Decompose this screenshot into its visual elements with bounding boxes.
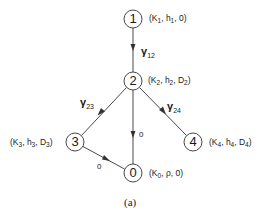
h-subscript: 4 — [231, 141, 235, 148]
arrowhead-icon — [159, 107, 166, 115]
gamma-subscript: 23 — [86, 103, 94, 110]
node-2-label: (K2, h2, D2) — [148, 76, 191, 87]
k-subscript: 4 — [218, 141, 222, 148]
arrowhead-icon — [131, 131, 136, 138]
d-subscript: 4 — [245, 141, 249, 148]
node-4-label: (K4, h4, D4) — [209, 138, 252, 149]
d-subscript: 3 — [46, 141, 50, 148]
network-diagram — [0, 0, 265, 218]
h-subscript: 2 — [170, 79, 174, 86]
edge-2-4-label: γ24 — [167, 101, 181, 114]
k-subscript: 0 — [158, 172, 162, 179]
k-subscript: 3 — [19, 141, 23, 148]
h-subscript: 3 — [32, 141, 36, 148]
figure-caption: (a) — [124, 196, 136, 208]
arrowhead-icon — [102, 155, 110, 161]
rho-symbol: ρ — [166, 168, 171, 178]
h-subscript: 1 — [171, 17, 175, 24]
edge-1-2 — [131, 28, 136, 72]
edge-2-3 — [82, 88, 127, 136]
node-0-number: 0 — [124, 164, 142, 182]
node-0-label: (K0, ρ, 0) — [149, 169, 183, 180]
d-symbol: 0 — [175, 168, 180, 178]
gamma-subscript: 12 — [147, 52, 155, 59]
node-3-label: (K3, h3, D3) — [10, 138, 53, 149]
k-subscript: 2 — [157, 79, 161, 86]
edge-2-3-label: γ23 — [80, 97, 94, 110]
edge-1-2-label: γ12 — [141, 46, 155, 59]
d-symbol: 0 — [179, 13, 184, 23]
edge-2-0 — [131, 90, 136, 164]
node-3-number: 3 — [66, 133, 84, 151]
d-subscript: 2 — [184, 79, 188, 86]
edge-3-0-label: 0 — [97, 163, 101, 171]
node-1-number: 1 — [124, 10, 142, 28]
gamma-subscript: 24 — [173, 107, 181, 114]
node-4-number: 4 — [184, 133, 202, 151]
edge-3-0 — [83, 147, 125, 170]
node-1-label: (K1, h1, 0) — [149, 14, 187, 25]
edge-2-0-label: 0 — [139, 131, 143, 139]
arrowhead-icon — [131, 44, 136, 51]
k-subscript: 1 — [158, 17, 162, 24]
node-2-number: 2 — [124, 72, 142, 90]
